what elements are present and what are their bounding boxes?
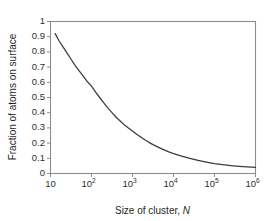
- x-axis-label: Size of cluster, N: [115, 205, 191, 216]
- x-axis-tick-labels: 10102103104105106: [45, 177, 260, 189]
- x-tick-label: 105: [204, 177, 219, 189]
- y-tick-label: 0: [40, 167, 45, 178]
- figure-container: 00.10.20.30.40.50.60.70.80.91 1010210310…: [0, 0, 274, 221]
- x-tick-label: 10: [45, 178, 56, 189]
- semilog-chart: 00.10.20.30.40.50.60.70.80.91 1010210310…: [0, 0, 274, 221]
- x-tick-label: 104: [163, 177, 178, 189]
- series-line-fraction-of-atoms-on-surface: [55, 34, 255, 168]
- y-tick-label: 0.4: [32, 106, 45, 117]
- y-tick-label: 0.5: [32, 91, 45, 102]
- y-tick-label: 0.9: [32, 30, 45, 41]
- x-tick-label: 102: [81, 177, 96, 189]
- x-tick-label: 106: [245, 177, 260, 189]
- y-axis-tick-labels: 00.10.20.30.40.50.60.70.80.91: [32, 15, 45, 178]
- y-tick-label: 0.1: [32, 152, 45, 163]
- y-axis-label: Fraction of atoms on surface: [7, 33, 18, 160]
- y-tick-label: 0.3: [32, 121, 45, 132]
- x-tick-label: 103: [122, 177, 137, 189]
- y-tick-label: 1: [40, 15, 45, 26]
- y-tick-label: 0.2: [32, 137, 45, 148]
- y-tick-label: 0.7: [32, 61, 45, 72]
- y-tick-label: 0.6: [32, 76, 45, 87]
- data-curve: [55, 34, 255, 168]
- plot-frame: [51, 22, 256, 174]
- y-tick-label: 0.8: [32, 45, 45, 56]
